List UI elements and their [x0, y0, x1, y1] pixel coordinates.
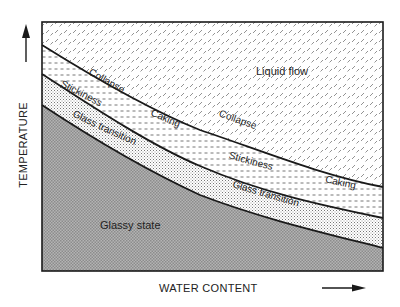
liquid-flow-label: Liquid flow	[256, 65, 308, 77]
state-diagram: Liquid flow Glassy state Collapse Collap…	[0, 0, 400, 307]
y-axis-label: TEMPERATURE	[17, 102, 29, 188]
x-axis-label: WATER CONTENT	[159, 282, 258, 294]
glassy-state-label: Glassy state	[100, 219, 161, 231]
arrow-right-icon	[322, 285, 366, 292]
arrow-up-icon	[22, 24, 30, 62]
